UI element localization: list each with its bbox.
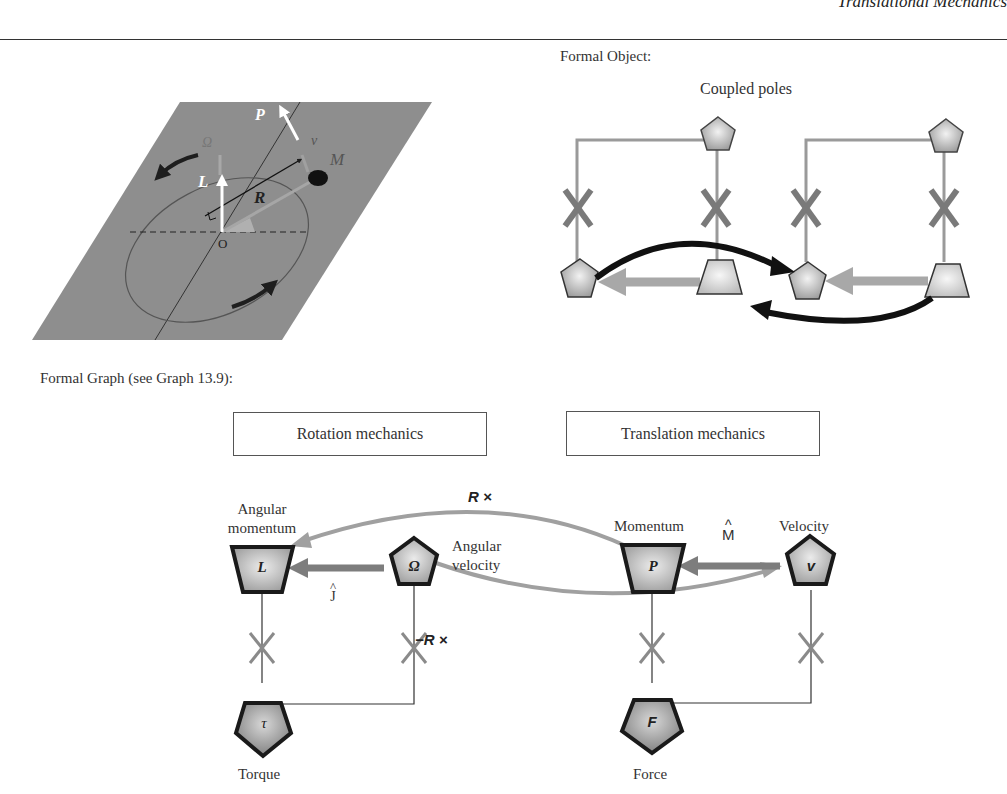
trapezoid-pole-right [925,264,969,297]
operator-mass-m: ^ M [722,520,735,540]
angular-velocity-line2: velocity [452,556,522,575]
coupled-poles-diagram [561,117,969,321]
label-omega: Ω [202,135,212,151]
cross-icons [565,190,957,226]
pentagon-pole-bottom-left [561,259,598,297]
pentagon-pole-bottom-right [789,262,826,299]
angular-momentum-label: Angular momentum [222,500,302,538]
label-v: v [311,133,317,149]
pentagon-pole-top-right [929,119,963,152]
torque-label: Torque [238,765,280,784]
label-r: R [254,188,265,208]
node-omega-symbol: Ω [404,558,424,575]
velocity-label: Velocity [779,517,829,536]
operator-minus-r-cross: −R × [415,631,448,648]
label-m: M [330,150,344,170]
plane [32,102,432,340]
label-l: L [198,172,208,192]
formal-object-caption: Formal Object: [560,48,651,65]
angular-velocity-label: Angular velocity [452,537,522,575]
figure-canvas [0,0,1007,794]
node-l-symbol: L [252,559,272,576]
pentagon-pole-top-left [701,117,735,150]
j-symbol: J [330,592,336,602]
label-p: P [255,106,265,124]
momentum-label: Momentum [614,517,684,536]
label-origin: O [218,236,227,252]
orbital-plane-figure [32,102,432,352]
angular-velocity-line1: Angular [452,537,522,556]
operator-inertia-j: ^ J [330,582,336,602]
m-symbol: M [722,530,735,540]
trapezoid-pole-left [697,260,742,294]
translation-mechanics-label: Translation mechanics [621,425,765,443]
coupling-arc-bottom [765,298,932,321]
rotation-mechanics-label: Rotation mechanics [297,425,424,443]
node-tau-symbol: τ [254,715,274,732]
node-p-symbol: P [643,558,663,575]
node-v-symbol: v [801,557,821,574]
mass-dot [308,170,328,186]
formal-graph [232,512,834,756]
coupled-poles-title: Coupled poles [700,80,792,98]
translation-mechanics-box: Translation mechanics [566,411,820,456]
dissipator-crosses [250,633,823,663]
operator-r-cross: R × [468,488,492,505]
formal-graph-caption: Formal Graph (see Graph 13.9): [40,370,233,387]
angular-momentum-line2: momentum [222,519,302,538]
node-f-symbol: F [642,713,662,730]
force-label: Force [633,765,667,784]
angular-momentum-line1: Angular [222,500,302,519]
rotation-mechanics-box: Rotation mechanics [233,412,487,456]
